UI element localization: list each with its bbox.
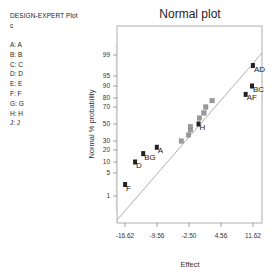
svg-text:5: 5 xyxy=(106,169,110,176)
svg-text:30: 30 xyxy=(103,137,111,144)
y-axis: 15102030507080909599 xyxy=(103,44,117,209)
svg-text:F: F xyxy=(126,184,131,193)
data-points: FDBGAHAFBCAD xyxy=(123,63,265,193)
chart-title: Normal plot xyxy=(159,7,221,21)
svg-text:90: 90 xyxy=(103,82,111,89)
svg-text:BG: BG xyxy=(144,153,156,162)
normal-plot-chart: Normal plot 15102030507080909599 -16.62-… xyxy=(0,0,276,278)
svg-text:80: 80 xyxy=(103,94,111,101)
svg-text:AF: AF xyxy=(247,93,257,102)
svg-text:95: 95 xyxy=(103,72,111,79)
svg-text:4.56: 4.56 xyxy=(215,232,228,239)
x-axis: -16.62-9.56-2.504.5611.62 xyxy=(116,223,261,239)
svg-text:50: 50 xyxy=(103,120,111,127)
svg-text:11.62: 11.62 xyxy=(245,232,261,239)
svg-text:D: D xyxy=(136,161,142,170)
svg-text:H: H xyxy=(200,123,206,132)
svg-text:70: 70 xyxy=(103,103,111,110)
svg-text:A: A xyxy=(158,146,164,155)
svg-text:-9.56: -9.56 xyxy=(150,232,165,239)
svg-text:-16.62: -16.62 xyxy=(116,232,135,239)
svg-text:10: 10 xyxy=(103,158,111,165)
y-axis-label: Normal % probability xyxy=(87,89,96,158)
x-axis-label: Effect xyxy=(180,260,200,269)
svg-text:99: 99 xyxy=(103,51,111,58)
svg-text:AD: AD xyxy=(254,65,265,74)
svg-text:1: 1 xyxy=(106,192,110,199)
svg-text:BC: BC xyxy=(253,85,264,94)
svg-text:20: 20 xyxy=(103,146,111,153)
svg-text:-2.50: -2.50 xyxy=(182,232,197,239)
